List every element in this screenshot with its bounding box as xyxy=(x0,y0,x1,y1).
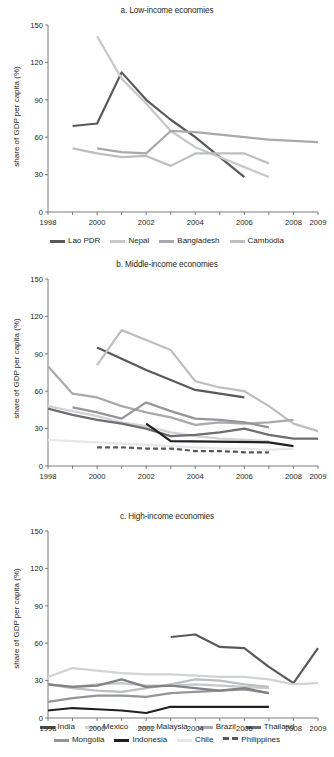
svg-text:0: 0 xyxy=(39,714,43,723)
panel-c-svg: 0306090120150199820002002200420062008200… xyxy=(0,506,334,741)
series-united-states xyxy=(48,689,269,701)
svg-text:2009: 2009 xyxy=(310,472,327,481)
legend-swatch-cambodia xyxy=(230,240,245,243)
series-bangladesh xyxy=(97,131,318,153)
svg-text:2000: 2000 xyxy=(89,724,106,733)
panel-b-plot: 0306090120150199820002002200420062008200… xyxy=(0,254,334,489)
panel-a-legend: Lao PDR Nepal Bangladesh Cambodia xyxy=(0,235,334,247)
svg-text:30: 30 xyxy=(35,676,43,685)
svg-text:2002: 2002 xyxy=(138,724,155,733)
series-nepal xyxy=(97,36,269,177)
svg-text:30: 30 xyxy=(35,424,43,433)
panel-a-plot: 0306090120150199820002002200420062008200… xyxy=(0,0,334,235)
svg-text:1998: 1998 xyxy=(40,724,57,733)
svg-text:60: 60 xyxy=(35,387,43,396)
legend-item-lao-pdr[interactable]: Lao PDR xyxy=(50,235,100,247)
svg-text:2008: 2008 xyxy=(285,724,302,733)
legend-swatch-bangladesh xyxy=(159,240,174,243)
svg-text:2004: 2004 xyxy=(187,472,204,481)
panel-low-income: a. Low-income economies share of GDP per… xyxy=(0,0,334,254)
svg-text:150: 150 xyxy=(30,275,43,284)
svg-text:2006: 2006 xyxy=(236,724,253,733)
panel-middle-income: b. Middle-income economies share of GDP … xyxy=(0,254,334,506)
svg-text:90: 90 xyxy=(35,602,43,611)
series-korea-rep xyxy=(48,707,269,713)
svg-text:2008: 2008 xyxy=(285,472,302,481)
svg-text:120: 120 xyxy=(30,312,43,321)
svg-text:0: 0 xyxy=(39,462,43,471)
svg-text:1998: 1998 xyxy=(40,472,57,481)
series-india xyxy=(97,348,244,398)
figure-gdp-per-capita-panels: a. Low-income economies share of GDP per… xyxy=(0,0,334,757)
svg-text:60: 60 xyxy=(35,133,43,142)
legend-label-bangladesh: Bangladesh xyxy=(177,235,219,247)
svg-text:2004: 2004 xyxy=(187,724,204,733)
legend-swatch-nepal xyxy=(110,240,125,243)
panel-high-income: c. High-income economies share of GDP pe… xyxy=(0,506,334,757)
svg-text:2009: 2009 xyxy=(310,218,327,227)
series-malaysia xyxy=(97,330,318,431)
series-cambodia xyxy=(73,148,269,165)
svg-text:2008: 2008 xyxy=(285,218,302,227)
legend-item-nepal[interactable]: Nepal xyxy=(110,235,149,247)
svg-text:30: 30 xyxy=(35,170,43,179)
svg-text:60: 60 xyxy=(35,639,43,648)
panel-b-svg: 0306090120150199820002002200420062008200… xyxy=(0,254,334,489)
svg-text:2009: 2009 xyxy=(310,724,327,733)
svg-text:2002: 2002 xyxy=(138,472,155,481)
svg-text:150: 150 xyxy=(30,527,43,536)
legend-label-nepal: Nepal xyxy=(128,235,149,247)
svg-text:2006: 2006 xyxy=(236,472,253,481)
panel-a-legend-row: Lao PDR Nepal Bangladesh Cambodia xyxy=(0,235,334,247)
legend-item-cambodia[interactable]: Cambodia xyxy=(230,235,284,247)
legend-item-bangladesh[interactable]: Bangladesh xyxy=(159,235,219,247)
svg-text:120: 120 xyxy=(30,58,43,67)
legend-label-cambodia: Cambodia xyxy=(248,235,284,247)
panel-a-svg: 0306090120150199820002002200420062008200… xyxy=(0,0,334,235)
svg-text:150: 150 xyxy=(30,21,43,30)
svg-text:2006: 2006 xyxy=(236,218,253,227)
panel-c-plot: 0306090120150199820002002200420062008200… xyxy=(0,506,334,741)
svg-text:2002: 2002 xyxy=(138,218,155,227)
legend-label-lao-pdr: Lao PDR xyxy=(68,235,100,247)
svg-text:90: 90 xyxy=(35,96,43,105)
series-brazil xyxy=(48,366,293,425)
svg-text:2000: 2000 xyxy=(89,472,106,481)
svg-text:90: 90 xyxy=(35,350,43,359)
svg-text:120: 120 xyxy=(30,564,43,573)
svg-text:1998: 1998 xyxy=(40,218,57,227)
svg-text:2000: 2000 xyxy=(89,218,106,227)
svg-text:0: 0 xyxy=(39,208,43,217)
svg-text:2004: 2004 xyxy=(187,218,204,227)
legend-swatch-lao-pdr xyxy=(50,240,65,243)
